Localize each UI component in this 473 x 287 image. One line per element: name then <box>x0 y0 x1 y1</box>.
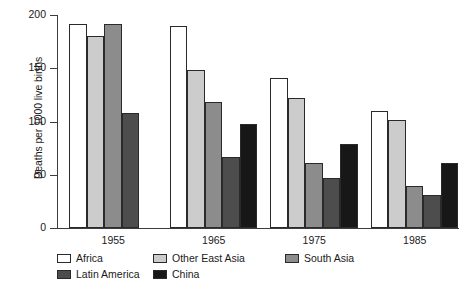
plot-area: 050100150200 1955196519751985 <box>57 15 459 228</box>
legend-label: Africa <box>76 252 103 264</box>
bar-latin-america-1955 <box>122 113 140 228</box>
bar-africa-1955 <box>69 24 87 228</box>
legend-item-south-asia[interactable]: South Asia <box>285 252 364 264</box>
bar-south-asia-1975 <box>305 163 323 228</box>
bar-africa-1965 <box>170 26 188 228</box>
bar-latin-america-1965 <box>222 157 240 228</box>
bar-latin-america-1985 <box>423 195 441 228</box>
y-axis-tick-label: 100 <box>28 115 46 127</box>
bar-latin-america-1975 <box>323 178 341 228</box>
legend-swatch-icon <box>57 254 71 263</box>
bar-chart: Deaths per 1000 live births 050100150200… <box>0 0 473 287</box>
bar-south-asia-1985 <box>406 186 424 228</box>
legend-row-secondary: Latin AmericaChina <box>57 266 457 282</box>
bar-group-1975: 1975 <box>270 15 371 228</box>
legend-swatch-icon <box>153 254 167 263</box>
legend-swatch-icon <box>153 270 167 279</box>
y-axis-line <box>57 15 58 228</box>
y-axis-tick-100: 100 <box>50 122 57 123</box>
chart-legend: AfricaOther East AsiaSouth Asia Latin Am… <box>57 250 457 282</box>
y-axis-tick-label: 150 <box>28 61 46 73</box>
x-axis-label-1965: 1965 <box>170 234 259 246</box>
bar-china-1975 <box>340 144 358 228</box>
bar-other-east-asia-1975 <box>288 98 306 228</box>
legend-swatch-icon <box>57 270 71 279</box>
bar-africa-1985 <box>371 111 389 228</box>
y-axis-tick-50: 50 <box>50 175 57 176</box>
legend-swatch-icon <box>285 254 299 263</box>
x-axis-label-1955: 1955 <box>69 234 158 246</box>
y-axis-tick-label: 200 <box>28 8 46 20</box>
bar-group-1955: 1955 <box>69 15 170 228</box>
bar-group-1985: 1985 <box>371 15 472 228</box>
legend-item-other-east-asia[interactable]: Other East Asia <box>153 252 285 264</box>
y-axis-tick-150: 150 <box>50 68 57 69</box>
legend-label: Latin America <box>76 268 140 280</box>
legend-item-latin-america[interactable]: Latin America <box>57 268 153 280</box>
bar-other-east-asia-1985 <box>388 120 406 228</box>
x-axis-label-1975: 1975 <box>270 234 359 246</box>
y-axis-tick-label: 0 <box>40 221 46 233</box>
y-axis-tick-0: 0 <box>50 228 57 229</box>
legend-item-china[interactable]: China <box>153 268 285 280</box>
legend-item-africa[interactable]: Africa <box>57 252 153 264</box>
bar-south-asia-1955 <box>104 24 122 228</box>
y-axis-tick-200: 200 <box>50 15 57 16</box>
bar-africa-1975 <box>270 78 288 228</box>
x-axis-line <box>57 228 459 229</box>
y-axis-tick-label: 50 <box>34 168 46 180</box>
bar-other-east-asia-1955 <box>87 36 105 228</box>
bar-other-east-asia-1965 <box>187 70 205 228</box>
bar-group-1965: 1965 <box>170 15 271 228</box>
legend-label: Other East Asia <box>172 252 245 264</box>
legend-label: South Asia <box>304 252 354 264</box>
bar-china-1985 <box>441 163 459 228</box>
bar-china-1965 <box>240 124 258 228</box>
bar-south-asia-1965 <box>205 102 223 228</box>
x-axis-label-1985: 1985 <box>371 234 460 246</box>
legend-row-primary: AfricaOther East AsiaSouth Asia <box>57 250 457 266</box>
legend-label: China <box>172 268 199 280</box>
